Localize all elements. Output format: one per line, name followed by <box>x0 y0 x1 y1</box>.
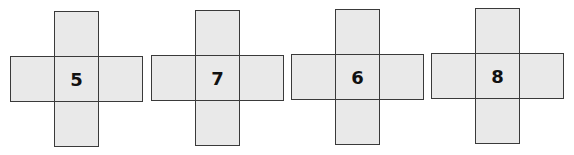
face-left <box>291 54 336 100</box>
face-right <box>379 54 424 100</box>
face-bottom <box>195 100 240 146</box>
face-bottom <box>335 99 380 145</box>
face-left <box>10 56 55 102</box>
net-number: 6 <box>335 54 380 100</box>
cross-net-3: 6 <box>291 9 423 144</box>
face-bottom <box>54 101 99 147</box>
net-number: 7 <box>195 55 240 101</box>
face-right <box>239 55 284 101</box>
cross-net-1: 5 <box>10 11 142 146</box>
cross-net-4: 8 <box>431 8 563 143</box>
face-left <box>431 53 476 99</box>
face-right <box>98 56 143 102</box>
face-bottom <box>475 98 520 144</box>
cross-net-2: 7 <box>151 10 283 145</box>
net-number: 8 <box>475 53 520 99</box>
face-top <box>195 10 240 56</box>
face-top <box>475 8 520 54</box>
net-number: 5 <box>54 56 99 102</box>
face-top <box>54 11 99 57</box>
face-top <box>335 9 380 55</box>
face-right <box>519 53 564 99</box>
face-left <box>151 55 196 101</box>
